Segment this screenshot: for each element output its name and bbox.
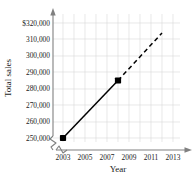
x-tick-label-2005: 2005 [78,153,93,162]
data-point-2008 [115,77,121,83]
x-axis-arrowhead-icon [185,147,193,152]
y-tick-label-320000: $320,000 [22,19,50,28]
y-tick-label-300000: 300,000 [26,51,50,60]
y-tick-label-310000: 310,000 [26,35,50,44]
y-tick-label-260000: 260,000 [26,117,50,126]
x-tick-label-2007: 2007 [100,153,115,162]
sales-projection-chart: $320,000 310,000 300,000 290,000 280,000… [0,0,196,173]
x-tick-label-2011: 2011 [144,153,159,162]
y-tick-label-280000: 280,000 [26,84,50,93]
y-tick-label-270000: 270,000 [26,101,50,110]
chart-canvas: $320,000 310,000 300,000 290,000 280,000… [0,0,196,173]
y-tick-label-250000: 250,000 [26,134,50,143]
data-point-2003 [60,135,66,141]
x-axis-title: Year [110,164,127,173]
y-axis-title: Total sales [3,58,13,97]
y-tick-label-290000: 290,000 [26,68,50,77]
x-tick-label-2013: 2013 [166,153,181,162]
y-axis-arrowhead-icon [50,8,55,16]
x-tick-label-2009: 2009 [122,153,137,162]
x-tick-label-2003: 2003 [56,153,71,162]
